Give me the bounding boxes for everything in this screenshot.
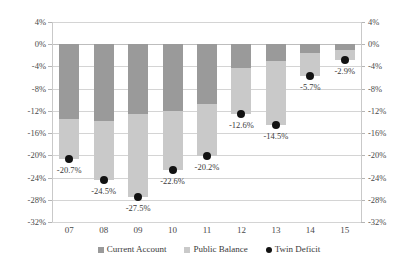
bar-group-14 (300, 22, 320, 222)
legend-item-label: Public Balance (193, 245, 247, 254)
bar-group-11 (197, 22, 217, 222)
bar-segment-current-account (163, 44, 183, 111)
bar-segment-public-balance (94, 121, 114, 180)
y-axis-left-tick-label: -16% (8, 129, 46, 138)
legend-item[interactable]: Public Balance (184, 245, 247, 254)
y-axis-left-tick-label: -32% (8, 218, 46, 227)
y-axis-left-tick-label: -4% (8, 62, 46, 71)
bar-segment-current-account (59, 44, 79, 119)
data-label-twin-deficit: -2.9% (319, 67, 371, 76)
y-axis-left-tick-label: -8% (8, 85, 46, 94)
x-axis-tick-label: 13 (261, 226, 291, 235)
x-axis-tick-label: 09 (123, 226, 153, 235)
bar-group-10 (163, 22, 183, 222)
legend-item-label: Twin Deficit (275, 245, 321, 254)
data-label-twin-deficit: -12.6% (215, 121, 267, 130)
y-axis-right-tick-label: 0% (368, 40, 379, 49)
bar-segment-current-account (197, 44, 217, 104)
chart-legend: Current AccountPublic BalanceTwin Defici… (0, 245, 418, 254)
bar-segment-current-account (94, 44, 114, 121)
y-axis-right-line (361, 22, 362, 222)
x-axis-tick-label: 11 (192, 226, 222, 235)
gridline (52, 222, 362, 223)
twin-deficit-marker (100, 176, 108, 184)
data-label-twin-deficit: -27.5% (112, 204, 164, 213)
data-label-twin-deficit: -5.7% (284, 83, 336, 92)
bar-segment-public-balance (231, 68, 251, 114)
legend-swatch-public-balance (184, 247, 190, 253)
y-axis-right-tick-label: -8% (368, 85, 382, 94)
y-axis-left-tick-label: 0% (8, 40, 46, 49)
bar-group-09 (128, 22, 148, 222)
data-label-twin-deficit: -14.5% (250, 132, 302, 141)
x-axis-tick-label: 14 (295, 226, 325, 235)
bar-segment-public-balance (128, 114, 148, 197)
legend-swatch-current-account (98, 247, 104, 253)
x-axis-tick-label: 07 (54, 226, 84, 235)
y-axis-right-tick-label: -20% (368, 151, 386, 160)
bar-group-15 (335, 22, 355, 222)
data-label-twin-deficit: -24.5% (78, 187, 130, 196)
bar-segment-current-account (231, 44, 251, 68)
data-label-twin-deficit: -22.6% (147, 177, 199, 186)
y-axis-right-tick-label: -28% (368, 196, 386, 205)
data-label-twin-deficit: -20.2% (181, 163, 233, 172)
bar-segment-public-balance (266, 61, 286, 124)
y-axis-right-tick-label: -12% (368, 107, 386, 116)
y-axis-left-tick-label: -28% (8, 196, 46, 205)
bar-segment-current-account (266, 44, 286, 61)
y-axis-tick-left (48, 222, 52, 223)
bar-segment-public-balance (59, 119, 79, 159)
data-label-twin-deficit: -20.7% (43, 166, 95, 175)
legend-item-label: Current Account (107, 245, 167, 254)
legend-item[interactable]: Twin Deficit (266, 245, 321, 254)
y-axis-right-tick-label: -16% (368, 129, 386, 138)
y-axis-left-tick-label: 4% (8, 18, 46, 27)
bar-segment-public-balance (163, 111, 183, 169)
x-axis-tick-label: 10 (158, 226, 188, 235)
y-axis-tick-right (361, 222, 365, 223)
bar-segment-current-account (300, 44, 320, 52)
bar-group-07 (59, 22, 79, 222)
y-axis-right-tick-label: 4% (368, 18, 379, 27)
chart-container: 4%0%-4%-8%-12%-16%-20%-24%-28%-32% 4%0%-… (0, 0, 418, 268)
x-axis-tick-label: 12 (226, 226, 256, 235)
bar-segment-public-balance (197, 104, 217, 156)
legend-item[interactable]: Current Account (98, 245, 167, 254)
twin-deficit-marker (169, 166, 177, 174)
x-axis-tick-label: 15 (330, 226, 360, 235)
y-axis-right-tick-label: -24% (368, 174, 386, 183)
bar-segment-current-account (128, 44, 148, 113)
y-axis-right-tick-label: -32% (368, 218, 386, 227)
x-axis-tick-label: 08 (89, 226, 119, 235)
y-axis-left-line (52, 22, 53, 222)
twin-deficit-marker (272, 121, 280, 129)
y-axis-left-tick-label: -12% (8, 107, 46, 116)
legend-marker-twin-deficit (266, 247, 272, 253)
y-axis-left-tick-label: -24% (8, 174, 46, 183)
y-axis-left-tick-label: -20% (8, 151, 46, 160)
